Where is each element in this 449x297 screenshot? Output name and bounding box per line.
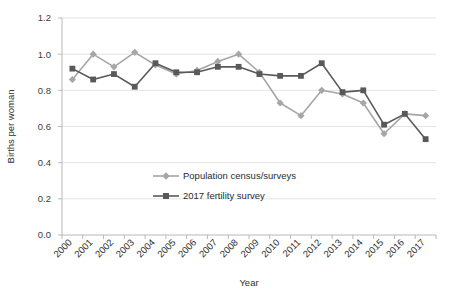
y-axis-title: Births per woman <box>5 90 16 164</box>
data-point-marker <box>298 73 304 79</box>
y-axis-tick-label: 0.8 <box>38 85 51 96</box>
data-point-marker <box>194 69 200 75</box>
data-point-marker <box>402 111 408 117</box>
y-axis-tick-label: 0.2 <box>38 193 51 204</box>
data-point-marker <box>90 77 96 83</box>
data-point-marker <box>173 69 179 75</box>
data-point-marker <box>319 60 325 66</box>
data-point-marker <box>277 73 283 79</box>
line-chart: 0.00.20.40.60.81.01.2 200020012002200320… <box>0 0 449 297</box>
legend-label: Population census/surveys <box>183 170 296 181</box>
data-point-marker <box>153 60 159 66</box>
legend-marker-swatch <box>163 193 169 199</box>
data-point-marker <box>381 122 387 128</box>
x-axis-title: Year <box>239 277 258 288</box>
legend-label: 2017 fertility survey <box>183 190 265 201</box>
data-point-marker <box>423 136 429 142</box>
y-axis-tick-label: 0.6 <box>38 121 51 132</box>
y-axis-tick-label: 0.0 <box>38 229 51 240</box>
data-point-marker <box>360 87 366 93</box>
y-axis-tick-label: 1.2 <box>38 12 51 23</box>
data-point-marker <box>215 64 221 70</box>
data-point-marker <box>256 71 262 77</box>
data-point-marker <box>132 84 138 90</box>
data-point-marker <box>111 71 117 77</box>
y-axis-tick-label: 1.0 <box>38 49 51 60</box>
chart-container: 0.00.20.40.60.81.01.2 200020012002200320… <box>0 0 449 297</box>
y-axis-tick-label: 0.4 <box>38 157 51 168</box>
data-point-marker <box>69 66 75 72</box>
data-point-marker <box>236 64 242 70</box>
data-point-marker <box>340 89 346 95</box>
